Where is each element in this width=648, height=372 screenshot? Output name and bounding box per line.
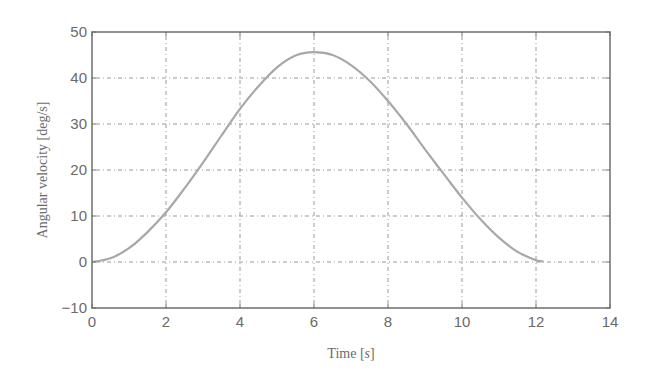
x-tick-label: 12 <box>528 313 545 330</box>
angular-velocity-curve <box>92 52 543 262</box>
x-tick-label: 14 <box>602 313 619 330</box>
x-tick-label: 4 <box>236 313 244 330</box>
data-series <box>92 52 543 262</box>
x-tick-label: 0 <box>88 313 96 330</box>
x-axis-label: Time [s] <box>327 346 374 361</box>
y-tick-label: 30 <box>70 115 87 132</box>
y-tick-label: 10 <box>70 207 87 224</box>
y-tick-label: 40 <box>70 69 87 86</box>
x-tick-label: 6 <box>310 313 318 330</box>
y-tick-label: 20 <box>70 161 87 178</box>
y-axis-label: Angular velocity [deg/s] <box>35 102 50 239</box>
x-tick-label: 8 <box>384 313 392 330</box>
grid-lines <box>92 32 610 308</box>
y-tick-label: −10 <box>62 299 87 316</box>
y-tick-label: 0 <box>79 253 87 270</box>
x-tick-label: 2 <box>162 313 170 330</box>
x-axis-ticks: 02468101214 <box>88 32 619 330</box>
x-tick-label: 10 <box>454 313 471 330</box>
y-tick-label: 50 <box>70 23 87 40</box>
line-chart: 02468101214 −1001020304050 Time [s] Angu… <box>0 0 648 372</box>
